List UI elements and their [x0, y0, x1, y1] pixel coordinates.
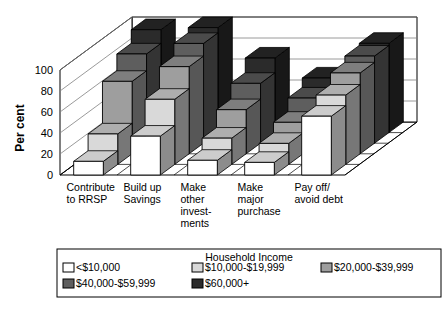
bar-chart-3d: Per cent 020406080100 Contributeto RRSPB… — [0, 0, 446, 315]
x-axis-category-label: to RRSP — [67, 193, 108, 205]
legend-swatch — [192, 263, 203, 272]
x-axis-category-label: major — [238, 193, 265, 205]
legend-swatch — [192, 279, 203, 288]
x-axis-category-label: Savings — [124, 193, 161, 205]
legend-item[interactable]: <$10,000 — [63, 261, 120, 273]
legend-label: $10,000-$19,999 — [205, 261, 285, 273]
legend-item[interactable]: $10,000-$19,999 — [192, 261, 285, 273]
y-axis-tick-label: 80 — [41, 85, 53, 97]
y-axis-tick-labels: 020406080100 — [35, 64, 53, 181]
chart-legend: Household Income<$10,000$10,000-$19,999$… — [57, 249, 441, 297]
y-axis-tick-label: 60 — [41, 106, 53, 118]
y-axis-tick-label: 40 — [41, 127, 53, 139]
legend-label: $60,000+ — [205, 277, 249, 289]
legend-swatch — [63, 263, 74, 272]
legend-item[interactable]: $20,000-$39,999 — [321, 261, 414, 273]
legend-item[interactable]: $60,000+ — [192, 277, 249, 289]
y-axis-tick-label: 0 — [47, 169, 53, 181]
x-axis-category-label: other — [181, 193, 205, 205]
legend-label: $40,000-$59,999 — [76, 277, 156, 289]
x-axis-category-labels: Contributeto RRSPBuild upSavingsMakeothe… — [67, 181, 344, 229]
x-axis-category-label: invest- — [181, 205, 212, 217]
y-axis-tick-label: 100 — [35, 64, 53, 76]
x-axis-category-label: Pay off/ — [295, 181, 330, 193]
x-axis-category-label: Make — [181, 181, 207, 193]
legend-swatch — [63, 279, 74, 288]
chart-container: Per cent 020406080100 Contributeto RRSPB… — [0, 0, 446, 315]
x-axis-category-label: purchase — [238, 205, 281, 217]
legend-label: $20,000-$39,999 — [334, 261, 414, 273]
x-axis-category-label: ments — [181, 217, 210, 229]
legend-label: <$10,000 — [76, 261, 120, 273]
x-axis-category-label: Build up — [124, 181, 162, 193]
y-axis-title: Per cent — [13, 104, 27, 151]
x-axis-category-label: Make — [238, 181, 264, 193]
x-axis-category-label: avoid debt — [295, 193, 344, 205]
bar — [131, 126, 175, 175]
legend-item[interactable]: $40,000-$59,999 — [63, 277, 156, 289]
bar — [302, 106, 346, 175]
x-axis-category-label: Contribute — [67, 181, 116, 193]
legend-swatch — [321, 263, 332, 272]
y-axis-tick-label: 20 — [41, 148, 53, 160]
